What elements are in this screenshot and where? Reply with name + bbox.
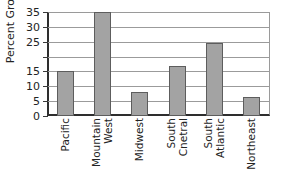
bar bbox=[243, 97, 260, 116]
y-axis-tick-label: 35 bbox=[26, 7, 40, 18]
x-axis-label-line: South bbox=[203, 118, 214, 149]
x-axis-label-line: Atlantic bbox=[215, 118, 226, 158]
x-axis-label: Northeast bbox=[233, 118, 270, 178]
y-axis-tick-label: 30 bbox=[26, 21, 40, 32]
x-axis-label-line: Pacific bbox=[60, 118, 71, 151]
y-axis-tick-label: 10 bbox=[26, 81, 40, 92]
x-axis-label: SouthCnetral bbox=[159, 118, 196, 178]
bar bbox=[206, 43, 223, 116]
bar-series bbox=[47, 12, 270, 116]
x-axis-label-line: Cnetral bbox=[178, 118, 189, 156]
bar bbox=[94, 12, 111, 116]
bar bbox=[57, 71, 74, 116]
x-axis-label: MountainWest bbox=[84, 118, 121, 178]
x-axis-label-line: Mountain bbox=[91, 118, 102, 167]
bar bbox=[131, 92, 148, 116]
x-axis-label: SouthAtlantic bbox=[196, 118, 233, 178]
plot-area: 051015253035 bbox=[47, 12, 270, 116]
bar bbox=[169, 66, 186, 117]
y-axis-tick-label: 5 bbox=[33, 96, 40, 107]
y-axis-tick-label: 15 bbox=[26, 66, 40, 77]
x-axis-labels: PacificMountainWestMidwestSouthCnetralSo… bbox=[47, 118, 270, 180]
x-axis-label-line: West bbox=[103, 118, 114, 144]
y-axis-title: Percent Growth bbox=[4, 0, 18, 76]
x-axis-label-line: Northeast bbox=[246, 118, 257, 170]
chart-title bbox=[0, 0, 283, 7]
y-axis-tick-label: 25 bbox=[26, 36, 40, 47]
x-axis-label-line: South bbox=[166, 118, 177, 149]
x-axis-label: Midwest bbox=[121, 118, 158, 178]
y-axis-tick bbox=[43, 116, 48, 117]
bar-chart: Percent Growth 051015253035 PacificMount… bbox=[0, 0, 283, 181]
x-axis-label: Pacific bbox=[47, 118, 84, 178]
x-axis-label-line: Midwest bbox=[134, 118, 145, 161]
y-axis-tick-label: 0 bbox=[33, 111, 40, 122]
